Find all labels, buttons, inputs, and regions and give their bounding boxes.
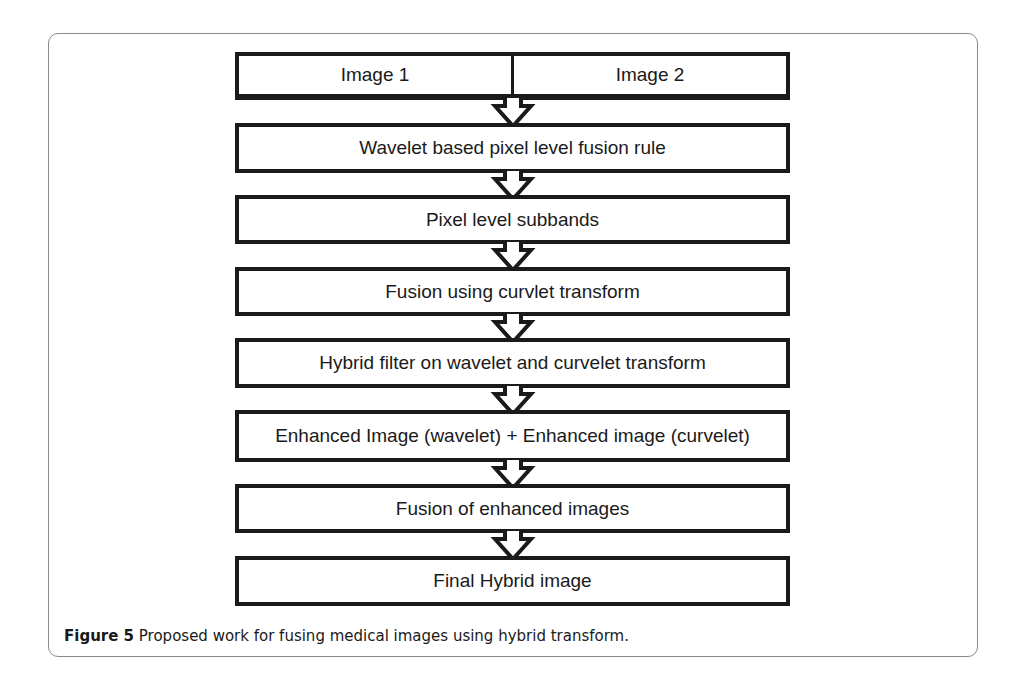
caption-text: Proposed work for fusing medical images … xyxy=(134,627,629,645)
step-hybrid-filter: Hybrid filter on wavelet and curvelet tr… xyxy=(235,338,790,388)
input-images-box: Image 1 Image 2 xyxy=(235,52,790,100)
step-enhanced-images: Enhanced Image (wavelet) + Enhanced imag… xyxy=(235,410,790,462)
step-wavelet-fusion-rule: Wavelet based pixel level fusion rule xyxy=(235,123,790,173)
step-final-hybrid-image: Final Hybrid image xyxy=(235,556,790,606)
figure-caption: Figure 5 Proposed work for fusing medica… xyxy=(64,627,629,645)
caption-label: Figure 5 xyxy=(64,627,134,645)
step-curvlet-fusion: Fusion using curvlet transform xyxy=(235,267,790,316)
step-pixel-level-subbands: Pixel level subbands xyxy=(235,195,790,244)
input-image-2: Image 2 xyxy=(514,56,786,94)
input-image-1: Image 1 xyxy=(239,56,514,94)
step-fusion-enhanced: Fusion of enhanced images xyxy=(235,484,790,533)
